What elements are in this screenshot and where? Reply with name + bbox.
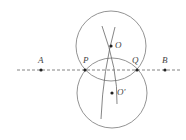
geometry-diagram: A B P Q O O' — [0, 0, 186, 140]
point-o-prime — [110, 91, 113, 94]
point-o — [109, 44, 112, 47]
label-b: B — [162, 55, 168, 65]
point-q — [135, 68, 138, 71]
label-a: A — [37, 55, 44, 65]
label-o-prime: O' — [117, 87, 126, 97]
label-o: O — [115, 40, 122, 50]
point-p — [83, 68, 86, 71]
point-a — [39, 68, 42, 71]
label-p: P — [82, 55, 89, 65]
construction-arc-1 — [102, 26, 117, 104]
construction-arc-2 — [101, 27, 115, 119]
label-q: Q — [132, 55, 139, 65]
point-b — [163, 68, 166, 71]
